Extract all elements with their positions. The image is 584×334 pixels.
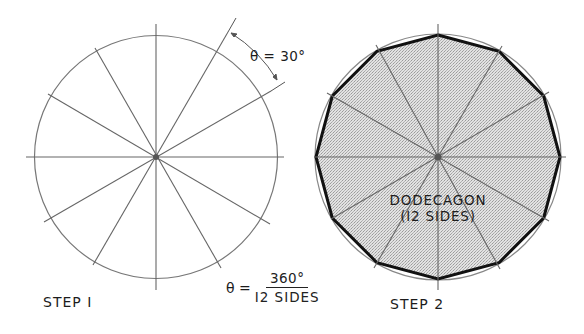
polygon-label: DODECAGON (I2 SIDES) xyxy=(378,192,498,224)
formula-lhs: θ = xyxy=(226,280,251,296)
step2-center-point xyxy=(435,154,442,161)
polygon-name: DODECAGON xyxy=(378,192,498,208)
step1-construction xyxy=(26,18,285,290)
step1-label: STEP I xyxy=(43,294,92,310)
formula-fraction: 360° I2 SIDES xyxy=(255,270,320,305)
angle-formula: θ = 360° I2 SIDES xyxy=(226,270,320,305)
angle-label: θ = 30° xyxy=(250,48,306,64)
step2-construction xyxy=(314,24,566,290)
formula-numerator: 360° xyxy=(266,270,309,288)
polygon-sides: (I2 SIDES) xyxy=(378,208,498,224)
step1-center-point xyxy=(153,154,159,160)
formula-denominator: I2 SIDES xyxy=(255,288,320,305)
step2-label: STEP 2 xyxy=(390,296,444,312)
